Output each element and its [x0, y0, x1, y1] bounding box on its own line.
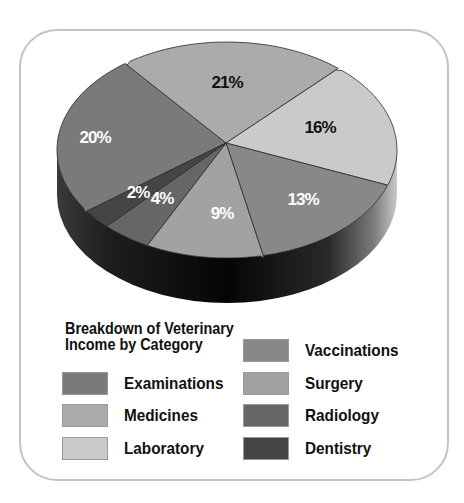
slice-label-medicines: 21%	[211, 73, 243, 92]
legend-swatch	[243, 372, 289, 395]
legend-swatch	[243, 339, 289, 362]
legend-swatch	[62, 437, 108, 460]
legend-item-medicines: Medicines	[62, 404, 206, 427]
legend-swatch	[243, 437, 289, 460]
slice-label-surgery: 9%	[211, 204, 234, 223]
legend-item-radiology: Radiology	[243, 404, 387, 427]
legend-item-dentistry: Dentistry	[243, 437, 379, 460]
legend-label: Examinations	[124, 374, 223, 394]
legend-label: Dentistry	[305, 439, 371, 459]
legend-item-vaccinations: Vaccinations	[243, 339, 409, 362]
legend-item-surgery: Surgery	[243, 372, 369, 395]
legend-label: Radiology	[305, 406, 379, 426]
legend-title-line-1: Breakdown of Veterinary	[65, 321, 234, 337]
slice-label-dentistry: 2%	[127, 183, 150, 202]
slice-label-examinations: 20%	[79, 128, 111, 147]
legend-title-line-2: Income by Category	[65, 337, 234, 353]
legend-item-examinations: Examinations	[62, 372, 235, 395]
legend-label: Laboratory	[124, 439, 204, 459]
legend-swatch	[62, 372, 108, 395]
legend-title: Breakdown of Veterinary Income by Catego…	[65, 321, 234, 353]
slice-label-radiology: 4%	[151, 189, 174, 208]
slice-label-laboratory: 16%	[304, 118, 336, 137]
legend-swatch	[243, 404, 289, 427]
slice-label-vaccinations: 13%	[287, 190, 319, 209]
legend-label: Surgery	[305, 374, 363, 394]
legend-label: Vaccinations	[305, 341, 399, 361]
pie-chart: 20%21%16%13%9%4%2%	[0, 0, 464, 503]
legend-item-laboratory: Laboratory	[62, 437, 213, 460]
legend-label: Medicines	[124, 406, 198, 426]
legend-swatch	[62, 404, 108, 427]
